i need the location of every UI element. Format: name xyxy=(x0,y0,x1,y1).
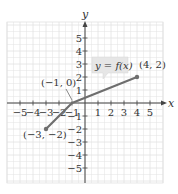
y-tick-label: −2 xyxy=(67,124,82,135)
x-tick-label: 1 xyxy=(95,107,101,118)
leader-line-neg1-0 xyxy=(66,89,72,100)
y-tick-label: −4 xyxy=(67,150,82,161)
y-tick-label: −3 xyxy=(67,137,82,148)
y-tick-label: −1 xyxy=(67,111,82,122)
x-tick-label: 2 xyxy=(108,107,114,118)
x-tick-label: 5 xyxy=(147,107,153,118)
y-tick-label: 2 xyxy=(76,72,82,83)
x-axis-label: x xyxy=(168,97,175,110)
point-label-neg3-neg2: (−3, −2) xyxy=(23,129,67,140)
y-axis-label: y xyxy=(81,8,89,21)
y-tick-label: 5 xyxy=(76,33,82,44)
endpoint-marker xyxy=(135,75,139,79)
y-tick-label: 3 xyxy=(76,59,82,70)
y-tick-label: 4 xyxy=(76,46,82,57)
axes xyxy=(7,21,167,183)
function-label: y = f(x) xyxy=(94,60,133,71)
x-tick-label: 3 xyxy=(121,107,127,118)
point-label-4-2: (4, 2) xyxy=(139,59,166,70)
x-tick-label: 4 xyxy=(134,107,140,118)
y-tick-label: −5 xyxy=(67,163,82,174)
function-graph: −5−4−3−2−112345−5−4−3−2−112345 x y y = f… xyxy=(0,0,178,194)
point-label-neg1-0: (−1, 0) xyxy=(41,77,76,88)
y-tick-label: 1 xyxy=(76,85,82,96)
